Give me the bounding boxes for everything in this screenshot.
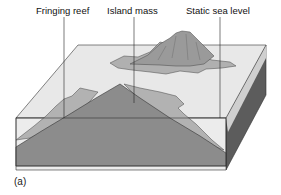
label-static-sea-level: Static sea level — [186, 5, 250, 16]
label-island-mass: Island mass — [107, 5, 158, 16]
figure-label: (a) — [14, 176, 26, 187]
diagram-fringing-reef: Fringing reef Island mass Static sea lev… — [0, 0, 281, 195]
label-fringing-reef: Fringing reef — [36, 5, 89, 16]
block-diagram — [0, 0, 281, 195]
